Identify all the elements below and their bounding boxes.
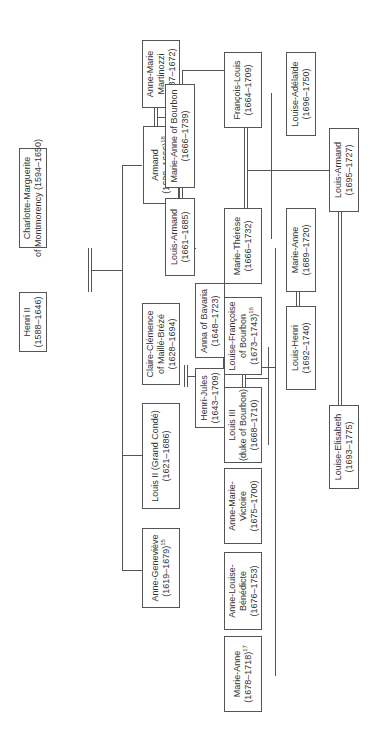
person-louis-ii: Louis II (Grand Condé)(1621–1686) [142,403,180,509]
dates: (1588–1646) [33,296,44,347]
marriage-line [296,292,300,306]
marriage-line [338,210,342,406]
child-link [122,165,142,166]
person-marie-anne-1689: Marie-Anne(1689–1720) [286,208,316,292]
name: Louise-Adélaïde [290,61,301,126]
dates: (1689–1720) [301,224,312,275]
dates: (1628–1694) [167,310,178,377]
person-marie-anne-of-bourbon: Marie-Anne of Bourbon(1666–1739) [165,84,195,188]
person-francois-louis: François-Louis(1664–1709) [224,52,262,128]
name2: Bénédicte [238,564,249,618]
dates: (1664–1709) [243,60,254,119]
name: Claire-Clémence [145,310,156,377]
dates: (1619–1679)15 [161,534,172,601]
name: Henri-Jules [199,372,210,423]
name: Armand [150,136,161,194]
person-henri-ii: Henri II(1588–1646) [19,292,47,352]
name: Louis-Armand [333,142,344,198]
dates: (1648–1723) [210,288,221,352]
dates: (1693–1775) [344,414,355,481]
name: Anne-Marie- [227,480,238,531]
sibling-bar [271,93,272,239]
person-anna-of-bavaria: Anna of Bavaria(1648–1723) [195,283,225,358]
dates: (1643–1709) [210,372,221,423]
name: Louis-Henri [290,322,301,373]
name: Marie-Anne [232,645,243,703]
dates: (1666–1732) [243,217,254,276]
person-louis-armand-1661: Louis-Armand(1661–1685) [165,198,195,276]
name: Anne-Marie [145,48,156,99]
marriage-line [179,188,183,198]
name: Anna of Bavaria [199,288,210,352]
dates-text: (1619–1679) [161,546,171,597]
dates: (1692–1740) [301,322,312,373]
name: Marie-Anne [290,224,301,275]
dates: (1621–1686) [161,410,172,502]
dates: (1676–1753) [249,564,260,618]
name: Marie-Thérèse [232,217,243,276]
descent-line [92,270,122,271]
person-anne-louise-benedicte: Anne-Louise-Bénédicte(1676–1753) [224,552,262,630]
dates: (1678–1718)17 [243,645,254,703]
marriage-line [244,128,248,208]
child-link [122,455,142,456]
dates-text: (1678–1718) [243,652,253,703]
dates: of Montmorency (1594–1650) [33,139,44,257]
name2: of Maillé-Brézé [156,310,167,377]
name: Henri II [22,296,33,347]
descent-line [246,378,268,379]
person-louis-henri: Louis-Henri(1692–1740) [286,306,316,390]
footnote: 17 [242,645,248,652]
title: (duke of Bourbon) [238,389,249,461]
name: Louis III [227,389,238,461]
child-link [122,570,142,571]
footnote: 16 [248,307,254,314]
name: Anne-Louise- [227,564,238,618]
sibling-bar [268,347,269,445]
family-tree-diagram: Henri II(1588–1646) Charlotte-Marguerite… [0,0,370,736]
dates: (1666–1739) [180,89,191,182]
sibling-bar [122,165,123,570]
person-louis-iii: Louis III(duke of Bourbon)(1668–1710) [224,387,262,463]
person-claire-clemence: Claire-Clémenceof Maillé-Brézé(1628–1694… [142,303,180,385]
sibling-bar [275,248,276,676]
name: Louis-Armand [169,209,180,265]
dates: (1675–1700) [249,480,260,531]
child-link [182,70,224,71]
dates-text: (1673–1743) [249,314,259,365]
person-anne-marie-victoire: Anne-Marie-Victoire(1675–1700) [224,468,262,544]
marriage-line [242,375,246,387]
name: Louise-Elisabeth [333,414,344,481]
dates: (1696–1750) [301,61,312,126]
name: Louise-Françoise [227,301,238,370]
person-louise-adelaide: Louise-Adélaïde(1696–1750) [286,52,316,136]
person-marie-therese: Marie-Thérèse(1666–1732) [224,208,262,284]
dates: (1673–1743)16 [249,301,260,370]
footnote: 15 [160,539,166,546]
dates: (1661–1685) [180,209,191,265]
person-henri-jules: Henri-Jules(1643–1709) [195,368,225,428]
person-anne-genevieve: Anne-Geneviève(1619–1679)15 [142,528,180,608]
person-louis-armand-1695: Louis-Armand(1695–1727) [329,128,359,212]
dates: (1668–1710) [249,389,260,461]
person-louise-francoise: Louise-Françoiseof Bourbon(1673–1743)16 [224,297,262,375]
person-louise-elisabeth: Louise-Elisabeth(1693–1775) [329,405,359,489]
name: Marie-Anne of Bourbon [169,89,180,182]
name: Louis II (Grand Condé) [150,410,161,502]
name: Charlotte-Marguerite [22,139,33,257]
person-marie-anne-1678: Marie-Anne(1678–1718)17 [224,636,262,712]
name: François-Louis [232,60,243,119]
dates: (1695–1727) [344,142,355,198]
name2: Victoire [238,480,249,531]
person-charlotte-marguerite: Charlotte-Margueriteof Montmorency (1594… [19,148,47,248]
